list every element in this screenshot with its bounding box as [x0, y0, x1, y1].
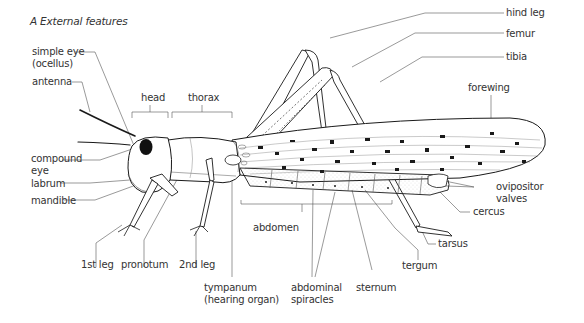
- label-mandible: mandible: [31, 195, 76, 206]
- label-tergum: tergum: [402, 260, 437, 271]
- label-antenna: antenna: [32, 76, 72, 87]
- label-femur: femur: [506, 28, 535, 39]
- grasshopper-diagram: A External features simple eye (ocellus)…: [0, 0, 584, 323]
- antenna-upper: [80, 110, 135, 136]
- label-tympanum: tympanum: [204, 282, 257, 293]
- label-thorax: thorax: [188, 92, 219, 103]
- label-cercus: cercus: [473, 206, 504, 217]
- label-first-leg: 1st leg: [81, 259, 114, 270]
- label-abdominal-spiracles: abdominal: [291, 282, 342, 293]
- label-abdomen: abdomen: [253, 222, 299, 233]
- label-labrum: labrum: [31, 178, 65, 189]
- label-compound-eye-sub: eye: [31, 165, 49, 176]
- label-tympanum-sub: (hearing organ): [204, 294, 279, 305]
- antenna-lower: [78, 142, 130, 145]
- ovipositor-shape: [428, 174, 448, 188]
- label-abdominal-spiracles-sub: spiracles: [291, 294, 333, 305]
- grasshopper-illustration: [0, 0, 584, 323]
- figure-title: A External features: [30, 15, 127, 27]
- label-forewing: forewing: [468, 82, 510, 93]
- label-tarsus: tarsus: [438, 238, 468, 249]
- label-hind-leg: hind leg: [506, 7, 545, 18]
- label-second-leg: 2nd leg: [179, 259, 215, 270]
- label-compound-eye: compound: [31, 153, 82, 164]
- label-pronotum: pronotum: [121, 259, 168, 270]
- label-ovipositor-valves-sub: valves: [496, 193, 527, 204]
- label-simple-eye-sub: (ocellus): [32, 58, 73, 69]
- label-ovipositor-valves: ovipositor: [496, 181, 543, 192]
- label-simple-eye: simple eye: [32, 46, 84, 57]
- label-sternum: sternum: [356, 282, 396, 293]
- compound-eye-shape: [140, 139, 153, 155]
- label-head: head: [141, 92, 165, 103]
- label-tibia: tibia: [506, 51, 527, 62]
